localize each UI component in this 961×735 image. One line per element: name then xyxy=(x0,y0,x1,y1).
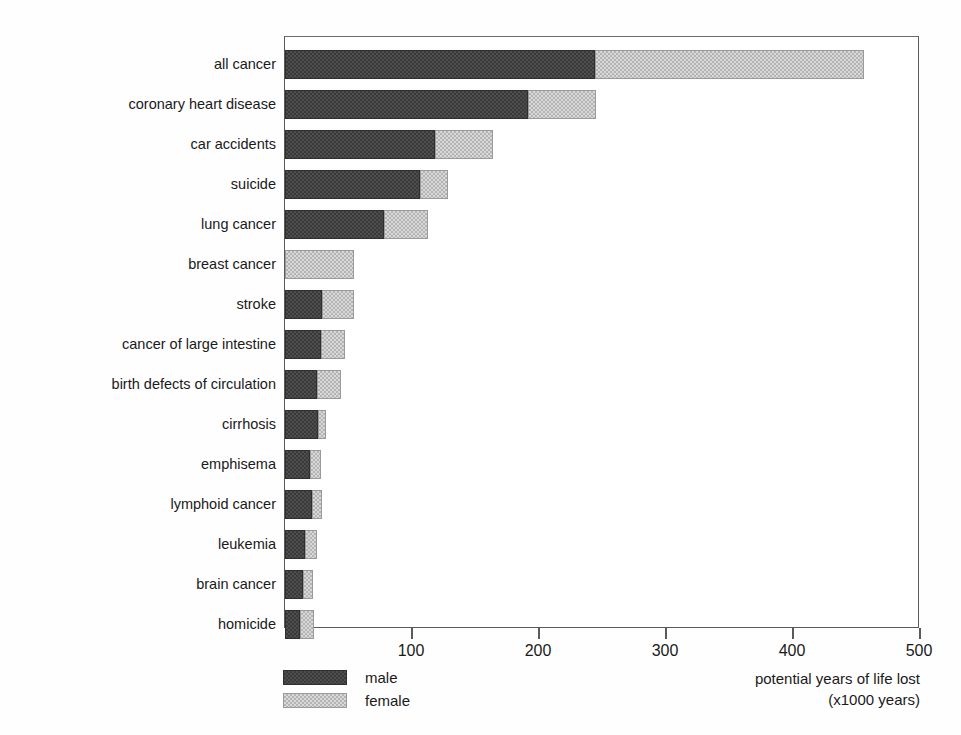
x-tick-mark xyxy=(919,628,921,639)
bar-segment-male[interactable] xyxy=(285,370,317,399)
plot-area xyxy=(284,36,919,628)
x-tick-label: 400 xyxy=(762,642,822,660)
category-label: stroke xyxy=(8,297,276,312)
category-label: lymphoid cancer xyxy=(8,497,276,512)
x-tick-label: 100 xyxy=(381,642,441,660)
x-tick-mark xyxy=(538,628,540,639)
category-label: coronary heart disease xyxy=(8,97,276,112)
category-label: birth defects of circulation xyxy=(8,377,276,392)
category-axis-labels: all cancercoronary heart diseasecar acci… xyxy=(0,0,276,735)
bar-segment-female[interactable] xyxy=(435,130,493,159)
bar-segment-male[interactable] xyxy=(285,530,305,559)
bar-segment-male[interactable] xyxy=(285,410,318,439)
bar-segment-female[interactable] xyxy=(318,410,326,439)
legend-swatch-female xyxy=(283,693,347,708)
bar-segment-female[interactable] xyxy=(310,450,320,479)
bar-segment-female[interactable] xyxy=(321,330,345,359)
bar-segment-female[interactable] xyxy=(317,370,341,399)
bar-segment-male[interactable] xyxy=(285,610,300,639)
bar-segment-female[interactable] xyxy=(322,290,354,319)
category-label: emphisema xyxy=(8,457,276,472)
bar-segment-female[interactable] xyxy=(303,570,313,599)
x-tick-label: 500 xyxy=(889,642,949,660)
chart-page: all cancercoronary heart diseasecar acci… xyxy=(0,0,961,735)
x-tick-label: 300 xyxy=(635,642,695,660)
category-label: brain cancer xyxy=(8,577,276,592)
x-tick-mark xyxy=(411,628,413,639)
category-label: cirrhosis xyxy=(8,417,276,432)
bar-segment-male[interactable] xyxy=(285,330,321,359)
category-label: leukemia xyxy=(8,537,276,552)
x-tick-label: 200 xyxy=(508,642,568,660)
bar-segment-female[interactable] xyxy=(384,210,428,239)
category-label: car accidents xyxy=(8,137,276,152)
bar-segment-male[interactable] xyxy=(285,130,435,159)
bar-segment-female[interactable] xyxy=(285,250,354,279)
bar-segment-female[interactable] xyxy=(528,90,597,119)
bar-segment-male[interactable] xyxy=(285,570,303,599)
bar-segment-male[interactable] xyxy=(285,450,310,479)
bar-segment-female[interactable] xyxy=(420,170,448,199)
bar-segment-male[interactable] xyxy=(285,210,384,239)
x-tick-mark xyxy=(665,628,667,639)
bar-segment-male[interactable] xyxy=(285,290,322,319)
x-axis-title-line2: (x1000 years) xyxy=(755,689,920,710)
category-label: cancer of large intestine xyxy=(8,337,276,352)
x-tick-mark xyxy=(792,628,794,639)
legend-swatch-male xyxy=(283,670,347,685)
bar-segment-male[interactable] xyxy=(285,490,312,519)
x-axis-title-line1: potential years of life lost xyxy=(755,668,920,689)
bar-segment-male[interactable] xyxy=(285,90,528,119)
legend-label: female xyxy=(365,691,410,710)
bar-segment-female[interactable] xyxy=(595,50,864,79)
bar-segment-male[interactable] xyxy=(285,170,420,199)
category-label: homicide xyxy=(8,617,276,632)
bar-segment-female[interactable] xyxy=(312,490,322,519)
legend-label: male xyxy=(365,668,398,687)
bar-segment-male[interactable] xyxy=(285,50,595,79)
bar-segment-female[interactable] xyxy=(305,530,316,559)
category-label: lung cancer xyxy=(8,217,276,232)
bar-segment-female[interactable] xyxy=(300,610,314,639)
category-label: all cancer xyxy=(8,57,276,72)
category-label: breast cancer xyxy=(8,257,276,272)
category-label: suicide xyxy=(8,177,276,192)
x-axis-title: potential years of life lost (x1000 year… xyxy=(755,668,920,710)
